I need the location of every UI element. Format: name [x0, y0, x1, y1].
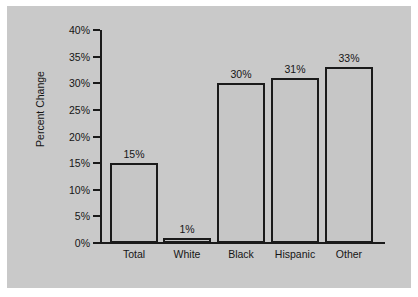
- y-tick-label-10: 10%: [52, 184, 90, 196]
- bar-hispanic: [271, 78, 319, 243]
- bar-total: [110, 163, 158, 243]
- bar-value-hispanic: 31%: [271, 63, 319, 75]
- bar-value-other: 33%: [325, 52, 373, 64]
- y-tick-label-0: 0%: [52, 237, 90, 249]
- y-tick-mark-40: [93, 29, 100, 31]
- bar-white: [163, 238, 211, 243]
- x-tick-label-white: White: [159, 248, 215, 260]
- x-tick-label-other: Other: [321, 248, 377, 260]
- y-tick-label-20: 20%: [52, 131, 90, 143]
- y-axis-label: Percent Change: [34, 54, 46, 164]
- y-tick-mark-0: [93, 242, 100, 244]
- bar-other: [325, 67, 373, 243]
- bar-black: [217, 83, 265, 243]
- y-tick-label-35: 35%: [52, 51, 90, 63]
- y-tick-label-5: 5%: [52, 210, 90, 222]
- plot-area: Percent Change 0% 5% 10% 15% 20% 25% 30%…: [0, 0, 418, 297]
- y-tick-label-30: 30%: [52, 77, 90, 89]
- x-tick-label-black: Black: [213, 248, 269, 260]
- bar-value-black: 30%: [217, 68, 265, 80]
- y-tick-label-40: 40%: [52, 24, 90, 36]
- y-tick-mark-25: [93, 109, 100, 111]
- y-axis-line: [100, 30, 102, 244]
- y-tick-mark-30: [93, 82, 100, 84]
- y-tick-mark-10: [93, 189, 100, 191]
- y-tick-mark-5: [93, 215, 100, 217]
- chart-figure: Percent Change 0% 5% 10% 15% 20% 25% 30%…: [0, 0, 418, 297]
- x-tick-label-hispanic: Hispanic: [265, 248, 325, 260]
- y-tick-label-25: 25%: [52, 104, 90, 116]
- y-tick-mark-35: [93, 56, 100, 58]
- x-tick-label-total: Total: [106, 248, 162, 260]
- bar-value-total: 15%: [110, 148, 158, 160]
- y-tick-mark-15: [93, 162, 100, 164]
- y-tick-label-15: 15%: [52, 157, 90, 169]
- y-tick-mark-20: [93, 136, 100, 138]
- bar-value-white: 1%: [163, 223, 211, 235]
